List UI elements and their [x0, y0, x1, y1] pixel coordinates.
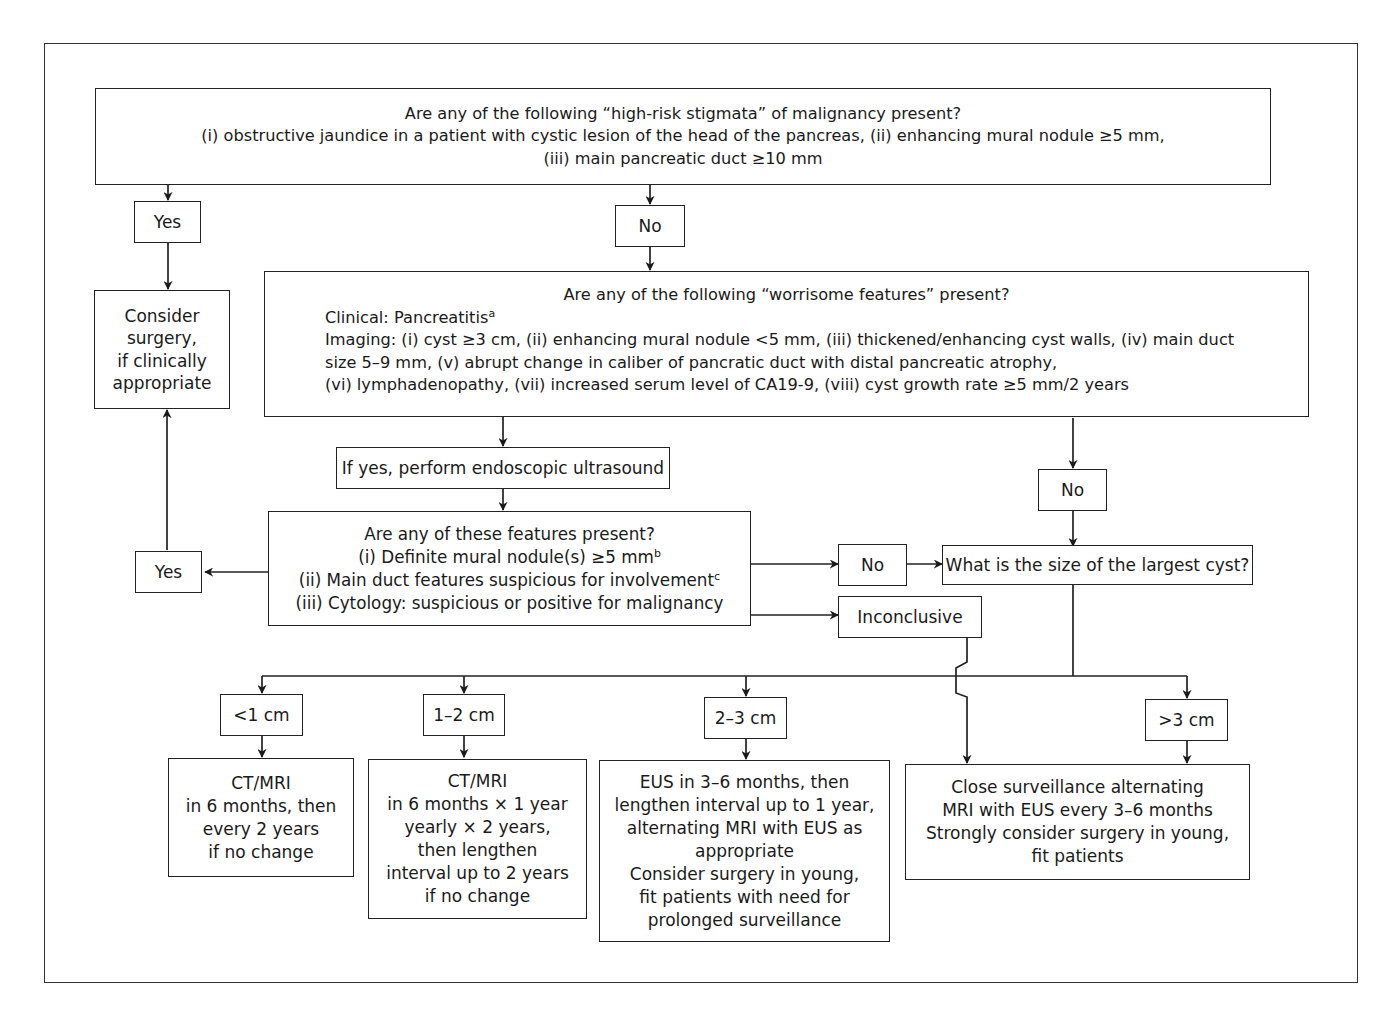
cyst-size-question-label: What is the size of the largest cyst? — [946, 554, 1250, 577]
eus-yes-box: Yes — [135, 551, 202, 593]
eus-feature-1-text: (i) Definite mural nodule(s) ≥5 mm — [358, 547, 654, 567]
worrisome-clinical-text: Clinical: Pancreatitis — [325, 308, 488, 327]
size-label-lt1-text: <1 cm — [233, 704, 289, 727]
worrisome-imaging-line-2: size 5–9 mm, (v) abrupt change in calibe… — [325, 352, 1057, 375]
eus-feature-3: (iii) Cytology: suspicious or positive f… — [296, 592, 724, 615]
action-2-3-line-2: lengthen interval up to 1 year, — [614, 794, 874, 817]
size-label-2-3: 2–3 cm — [704, 697, 787, 739]
action-2-3-line-4: appropriate — [695, 840, 794, 863]
worrisome-clinical: Clinical: Pancreatitisa — [325, 307, 495, 330]
perform-eus-box: If yes, perform endoscopic ultrasound — [336, 447, 670, 489]
worrisome-no-box: No — [1038, 469, 1107, 511]
action-2-3-line-6: fit patients with need for — [639, 886, 849, 909]
action-2-3-line-1: EUS in 3–6 months, then — [640, 771, 849, 794]
action-1-2-line-4: then lengthen — [418, 839, 538, 862]
cyst-size-question-box: What is the size of the largest cyst? — [942, 545, 1253, 585]
action-lt1-line-3: every 2 years — [203, 818, 319, 841]
high-risk-title: Are any of the following “high-risk stig… — [405, 103, 961, 126]
consider-surgery-line-3: if clinically — [117, 350, 207, 373]
worrisome-no-label: No — [1061, 479, 1084, 502]
action-2-3-line-7: prolonged surveillance — [648, 909, 841, 932]
action-1-2-line-2: in 6 months × 1 year — [387, 793, 567, 816]
eus-feature-2: (ii) Main duct features suspicious for i… — [299, 569, 720, 592]
action-1-2-line-3: yearly × 2 years, — [404, 816, 550, 839]
worrisome-imaging-line-3: (vi) lymphadenopathy, (vii) increased se… — [325, 374, 1129, 397]
action-lt1-line-1: CT/MRI — [231, 772, 290, 795]
eus-features-title: Are any of these features present? — [364, 523, 655, 546]
eus-no-label: No — [861, 554, 884, 577]
action-gt3-line-2: MRI with EUS every 3–6 months — [942, 799, 1213, 822]
worrisome-features-box: Are any of the following “worrisome feat… — [264, 271, 1309, 417]
high-risk-no-label: No — [638, 215, 661, 238]
action-2-3-line-5: Consider surgery in young, — [630, 863, 859, 886]
footnote-a: a — [488, 307, 495, 320]
perform-eus-label: If yes, perform endoscopic ultrasound — [342, 457, 664, 480]
action-1-2-line-1: CT/MRI — [448, 770, 507, 793]
consider-surgery-box: Consider surgery, if clinically appropri… — [94, 290, 230, 409]
eus-feature-1: (i) Definite mural nodule(s) ≥5 mmb — [358, 546, 661, 569]
consider-surgery-line-4: appropriate — [112, 372, 211, 395]
size-label-gt3: >3 cm — [1145, 699, 1228, 741]
size-label-lt1: <1 cm — [220, 694, 303, 736]
eus-features-box: Are any of these features present? (i) D… — [268, 511, 751, 626]
worrisome-title: Are any of the following “worrisome feat… — [564, 284, 1010, 307]
eus-inconclusive-label: Inconclusive — [857, 606, 962, 629]
action-gt3-line-3: Strongly consider surgery in young, — [926, 822, 1229, 845]
eus-feature-2-text: (ii) Main duct features suspicious for i… — [299, 570, 714, 590]
size-label-gt3-text: >3 cm — [1158, 709, 1214, 732]
high-risk-yes-box: Yes — [134, 201, 201, 243]
action-lt1-line-4: if no change — [208, 841, 313, 864]
action-1-2-line-5: interval up to 2 years — [386, 862, 569, 885]
size-label-1-2-text: 1–2 cm — [433, 704, 494, 727]
action-1-2-box: CT/MRI in 6 months × 1 year yearly × 2 y… — [368, 759, 587, 919]
action-gt3-line-1: Close surveillance alternating — [951, 776, 1204, 799]
consider-surgery-line-2: surgery, — [127, 327, 197, 350]
footnote-c: c — [714, 570, 720, 583]
consider-surgery-line-1: Consider — [125, 305, 200, 328]
eus-no-box: No — [838, 544, 907, 586]
high-risk-stigmata-box: Are any of the following “high-risk stig… — [95, 88, 1271, 185]
footnote-b: b — [654, 547, 661, 560]
high-risk-line-2: (iii) main pancreatic duct ≥10 mm — [543, 148, 822, 171]
size-label-1-2: 1–2 cm — [423, 694, 505, 736]
action-gt3-box: Close surveillance alternating MRI with … — [905, 764, 1250, 880]
action-lt1-box: CT/MRI in 6 months, then every 2 years i… — [168, 758, 354, 877]
worrisome-imaging-line-1: Imaging: (i) cyst ≥3 cm, (ii) enhancing … — [325, 329, 1234, 352]
eus-yes-label: Yes — [155, 561, 182, 584]
action-gt3-line-4: fit patients — [1031, 845, 1123, 868]
action-2-3-box: EUS in 3–6 months, then lengthen interva… — [599, 760, 890, 942]
high-risk-line-1: (i) obstructive jaundice in a patient wi… — [201, 125, 1164, 148]
high-risk-no-box: No — [615, 205, 685, 247]
eus-inconclusive-box: Inconclusive — [838, 596, 982, 638]
action-2-3-line-3: alternating MRI with EUS as — [627, 817, 863, 840]
size-label-2-3-text: 2–3 cm — [715, 707, 776, 730]
action-1-2-line-6: if no change — [425, 885, 530, 908]
action-lt1-line-2: in 6 months, then — [186, 795, 337, 818]
high-risk-yes-label: Yes — [154, 211, 181, 234]
